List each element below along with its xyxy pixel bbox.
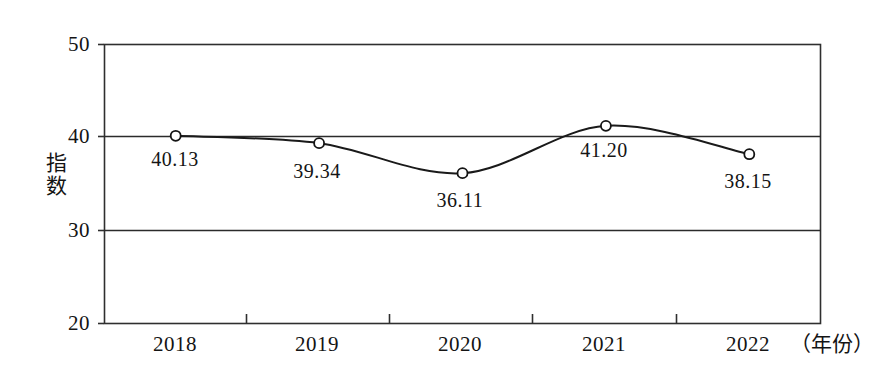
x-axis-unit-label: （年份） bbox=[790, 334, 874, 355]
x-axis-tick-label-2022: 2022 bbox=[693, 334, 803, 355]
x-axis-tick-label-2018: 2018 bbox=[120, 334, 230, 355]
data-point-label-2020: 36.11 bbox=[405, 190, 515, 210]
y-axis-title-char-1: 指 bbox=[44, 152, 68, 175]
data-point-label-2018: 40.13 bbox=[120, 149, 230, 169]
data-point-label-2021: 41.20 bbox=[549, 140, 659, 160]
x-axis-tick-label-2020: 2020 bbox=[405, 334, 515, 355]
y-axis-tick-label-30: 30 bbox=[44, 220, 90, 241]
y-axis-tick-label-20: 20 bbox=[44, 313, 90, 334]
x-axis-tick-label-2021: 2021 bbox=[549, 334, 659, 355]
data-point-marker-2022 bbox=[744, 149, 754, 159]
data-point-label-2022: 38.15 bbox=[693, 171, 803, 191]
x-axis-tick-label-2019: 2019 bbox=[262, 334, 372, 355]
y-axis-tick-label-50: 50 bbox=[44, 34, 90, 55]
y-axis-title: 指 数 bbox=[44, 152, 68, 198]
data-point-label-2019: 39.34 bbox=[262, 161, 372, 181]
data-point-marker-2018 bbox=[171, 131, 181, 141]
data-point-marker-2019 bbox=[314, 138, 324, 148]
data-point-marker-2021 bbox=[601, 121, 611, 131]
y-axis-tick-label-40: 40 bbox=[44, 126, 90, 147]
data-point-marker-2020 bbox=[458, 168, 468, 178]
y-axis-title-char-2: 数 bbox=[44, 175, 68, 198]
line-chart: 50 40 30 20 指 数 2018 2019 2020 2021 2022… bbox=[0, 0, 895, 382]
